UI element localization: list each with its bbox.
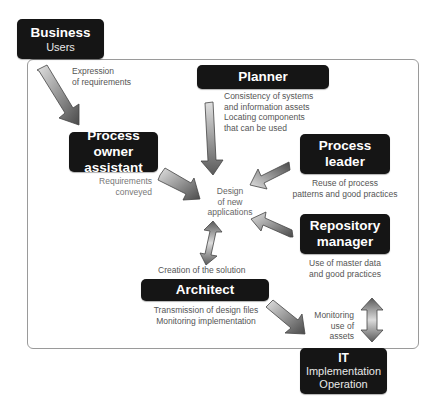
architect-title: Architect: [141, 282, 269, 298]
it-subtitle-2: Operation: [300, 378, 387, 391]
note-line: Monitoring: [310, 310, 354, 321]
note-architect: Transmission of design files Monitoring …: [150, 305, 262, 326]
note-line: Requirements: [88, 176, 152, 187]
note-line: Transmission of design files: [150, 305, 262, 316]
note-line: Reuse of process: [290, 178, 400, 189]
note-line: that can be used: [224, 123, 313, 134]
note-line: conveyed: [88, 187, 152, 198]
arrow-monitoring-double: [361, 298, 383, 342]
note-line: patterns and good practices: [290, 189, 400, 200]
center-line-1: Design: [200, 186, 260, 197]
assistant-title-1: Process owner: [69, 128, 158, 160]
arrow-leader-to-design: [250, 162, 290, 189]
note-line: and information assets: [224, 102, 313, 113]
center-line-3: applications: [200, 207, 260, 218]
note-line: assets: [310, 331, 354, 342]
center-line-2: of new: [200, 197, 260, 208]
arrow-assistant-to-design: [158, 168, 200, 200]
note-line: use of: [310, 321, 354, 332]
it-subtitle-1: Implementation: [300, 365, 387, 378]
note-line: Expression: [72, 66, 131, 77]
note-planner: Consistency of systems and information a…: [224, 91, 313, 133]
planner-title: Planner: [197, 69, 329, 85]
note-line: Monitoring implementation: [150, 316, 262, 327]
arrow-design-architect-double: [200, 221, 222, 265]
note-line: Use of master data: [295, 258, 395, 269]
business-subtitle: Users: [17, 41, 104, 54]
assistant-title-2: assistant: [69, 160, 158, 176]
business-users-node: Business Users: [17, 19, 104, 59]
note-line: and good practices: [295, 269, 395, 280]
note-monitoring: Monitoring use of assets: [310, 310, 354, 342]
planner-node: Planner: [197, 65, 329, 89]
center-design-label: Design of new applications: [200, 186, 260, 218]
note-creation: Creation of the solution: [158, 265, 245, 276]
note-expression: Expression of requirements: [72, 66, 131, 87]
business-title: Business: [17, 25, 104, 41]
leader-title-1: Process: [300, 138, 390, 154]
process-leader-node: Process leader: [300, 134, 390, 174]
repository-manager-node: Repository manager: [300, 214, 390, 254]
repository-title-1: Repository: [300, 218, 390, 234]
it-node: IT Implementation Operation: [300, 348, 387, 394]
architect-node: Architect: [141, 279, 269, 301]
leader-title-2: leader: [300, 154, 390, 170]
note-process-leader: Reuse of process patterns and good pract…: [290, 178, 400, 199]
note-line: Consistency of systems: [224, 91, 313, 102]
it-title: IT: [300, 352, 387, 365]
repository-title-2: manager: [300, 234, 390, 250]
arrow-planner-to-design: [201, 102, 223, 175]
process-owner-assistant-node: Process owner assistant: [69, 132, 158, 172]
note-line: of requirements: [72, 77, 131, 88]
note-line: Creation of the solution: [158, 265, 245, 276]
arrow-architect-to-it: [266, 300, 305, 334]
note-requirements: Requirements conveyed: [88, 176, 152, 197]
note-line: Locating components: [224, 112, 313, 123]
note-repository: Use of master data and good practices: [295, 258, 395, 279]
